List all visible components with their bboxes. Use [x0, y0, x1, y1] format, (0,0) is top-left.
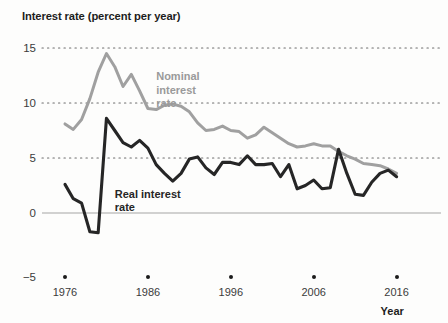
plot-area	[0, 0, 448, 323]
annotation-line: rate	[156, 97, 199, 111]
annotation-line: rate	[115, 201, 181, 215]
annotation-line: interest	[156, 84, 199, 98]
x-tick-label: 2006	[292, 286, 336, 298]
x-tick-label: 1976	[43, 286, 87, 298]
x-tick-marker	[312, 275, 316, 279]
y-tick-label: 15	[10, 42, 36, 54]
x-tick-marker	[229, 275, 233, 279]
nominal-series-label: Nominalinterestrate	[156, 70, 199, 111]
x-tick-marker	[63, 275, 67, 279]
real-series-label: Real interestrate	[115, 188, 181, 215]
y-tick-label: 0	[10, 207, 36, 219]
x-tick-label: 1996	[209, 286, 253, 298]
x-tick-label: 2016	[375, 286, 419, 298]
annotation-line: Real interest	[115, 188, 181, 202]
x-tick-label: 1986	[126, 286, 170, 298]
x-tick-marker	[146, 275, 150, 279]
y-tick-label: 5	[10, 152, 36, 164]
y-tick-label: 10	[10, 97, 36, 109]
annotation-line: Nominal	[156, 70, 199, 84]
x-tick-marker	[395, 275, 399, 279]
x-axis-label: Year	[381, 305, 404, 317]
y-tick-label: −5	[10, 271, 36, 283]
chart-figure: Interest rate (percent per year) −505101…	[0, 0, 448, 323]
